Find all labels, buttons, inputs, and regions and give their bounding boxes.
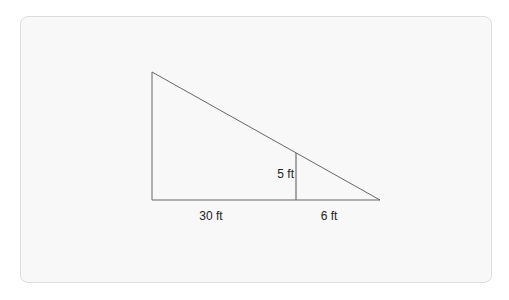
label-base-right: 6 ft bbox=[321, 209, 338, 223]
hypotenuse bbox=[152, 72, 380, 200]
label-inner-height: 5 ft bbox=[277, 167, 294, 181]
similar-triangles-diagram: 5 ft 30 ft 6 ft bbox=[0, 0, 509, 300]
label-base-left: 30 ft bbox=[199, 209, 223, 223]
